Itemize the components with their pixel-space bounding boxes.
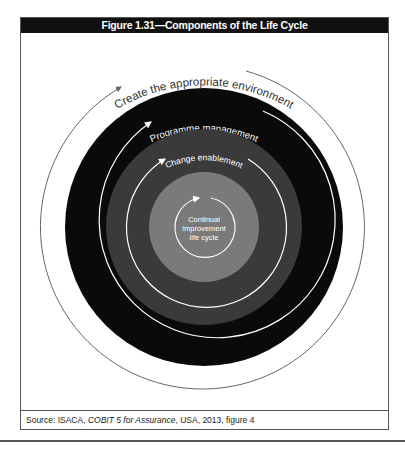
figure-frame: Figure 1.31—Components of the Life Cycle…	[20, 17, 389, 430]
source-suffix: , USA, 2013, figure 4	[175, 415, 254, 425]
core-label-line-3: life cycle	[190, 233, 219, 242]
source-title: COBIT 5 for Assurance	[88, 415, 176, 425]
source-prefix: Source: ISACA,	[26, 415, 88, 425]
life-cycle-diagram: Create the appropriate environment Progr…	[1, 1, 405, 452]
page-divider	[0, 440, 405, 442]
core-label-line-1: Continual	[188, 215, 220, 224]
core-label-line-2: improvement	[182, 224, 226, 233]
ring-continual-improvement: Continual improvement life cycle	[149, 172, 259, 282]
source-citation: Source: ISACA, COBIT 5 for Assurance, US…	[21, 410, 388, 429]
